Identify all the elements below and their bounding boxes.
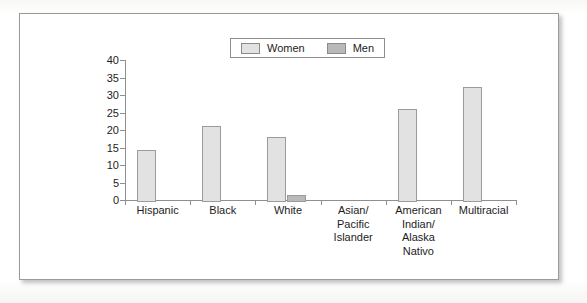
bar-women-4 [398,109,417,202]
x-category-label-line: Black [186,204,259,218]
bar-men-2 [287,195,306,202]
y-tick [120,60,125,61]
y-tick [120,95,125,96]
x-category-label-1: Black [186,204,259,218]
x-category-label-0: Hispanic [121,204,194,218]
x-category-label-line: Hispanic [121,204,194,218]
x-category-label-line: Nativo [382,245,455,259]
legend-label-women: Women [267,43,305,54]
scanned-page: Women Men [0,0,587,303]
y-tick [120,183,125,184]
y-tick-label: 0 [97,195,119,206]
legend-swatch-men [327,43,346,54]
x-axis-labels: HispanicBlackWhiteAsian/PacificIslanderA… [125,204,535,274]
bar-women-0 [137,150,156,202]
y-tick-label: 25 [97,108,119,119]
y-tick-label: 40 [97,55,119,66]
x-category-label-5: Multiracial [447,204,520,218]
x-category-label-line: Indian/ [382,218,455,232]
y-axis-line [125,60,126,200]
y-tick-label: 20 [97,125,119,136]
y-tick-label: 15 [97,143,119,154]
x-category-label-line: White [251,204,324,218]
x-category-label-line: Pacific [317,218,390,232]
x-category-label-line: American [382,204,455,218]
bar-women-5 [463,87,482,203]
y-tick-label: 30 [97,90,119,101]
x-category-label-2: White [251,204,324,218]
x-category-label-4: AmericanIndian/AlaskaNativo [382,204,455,258]
bar-women-2 [267,137,286,202]
legend-item-men: Men [327,43,374,54]
chart-legend: Women Men [230,38,385,58]
y-tick [120,113,125,114]
legend-item-women: Women [241,43,305,54]
x-category-label-line: Islander [317,231,390,245]
y-axis-labels: 40 35 30 25 20 15 10 5 0 [92,60,119,200]
x-category-label-line: Asian/ [317,204,390,218]
x-category-label-3: Asian/PacificIslander [317,204,390,245]
bar-women-1 [202,126,221,202]
y-tick [120,78,125,79]
legend-label-men: Men [353,43,374,54]
y-tick [120,130,125,131]
x-category-label-line: Multiracial [447,204,520,218]
chart-frame: Women Men [19,13,559,280]
y-tick [120,165,125,166]
y-tick [120,148,125,149]
y-tick-label: 5 [97,178,119,189]
x-category-label-line: Alaska [382,231,455,245]
legend-swatch-women [241,43,260,54]
y-tick-label: 10 [97,160,119,171]
y-tick-label: 35 [97,73,119,84]
bar-chart: Women Men [20,14,560,281]
plot-area: 40 35 30 25 20 15 10 5 0 [125,60,525,202]
